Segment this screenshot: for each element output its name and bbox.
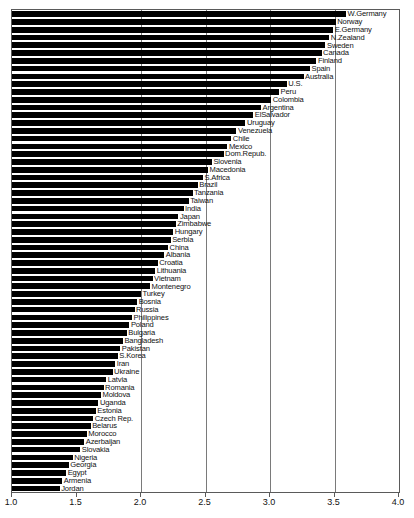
x-tick-label: 3.5: [327, 497, 340, 507]
bar: [12, 338, 123, 344]
bar: [12, 361, 115, 367]
bar: [12, 58, 316, 64]
bar: [12, 167, 208, 173]
bar: [12, 307, 135, 313]
bar: [12, 447, 80, 453]
bar: [12, 299, 137, 305]
bar: [12, 260, 158, 266]
bar: [12, 11, 346, 17]
bar: [12, 315, 132, 321]
bar: [12, 97, 271, 103]
bar: [12, 462, 69, 468]
x-axis: 1.01.52.02.53.03.54.0: [11, 493, 400, 518]
bar: [12, 470, 66, 476]
bar: [12, 416, 93, 422]
x-tick-label: 1.5: [69, 497, 82, 507]
x-tick-label: 4.0: [392, 497, 405, 507]
bar: [12, 50, 322, 56]
bar: [12, 455, 73, 461]
bar: [12, 423, 91, 429]
bar: [12, 159, 212, 165]
bar-chart: W.GermanyNorwayE.GermanyN.ZealandSwedenC…: [0, 0, 414, 518]
bar: [12, 136, 231, 142]
bar: [12, 330, 127, 336]
bar: [12, 400, 98, 406]
bar: [12, 221, 176, 227]
bar: [12, 439, 84, 445]
bar: [12, 206, 184, 212]
bar: [12, 42, 325, 48]
bar: [12, 27, 333, 33]
bar: [12, 283, 150, 289]
bar: [12, 151, 224, 157]
bar: [12, 408, 96, 414]
bar: [12, 105, 261, 111]
bar: [12, 81, 287, 87]
bar: [12, 128, 236, 134]
bar: [12, 144, 227, 150]
x-tick-label: 1.0: [5, 497, 18, 507]
bar: [12, 120, 245, 126]
bar: [12, 291, 141, 297]
bar-series: W.GermanyNorwayE.GermanyN.ZealandSwedenC…: [12, 10, 399, 492]
bar: [12, 353, 118, 359]
bar: [12, 322, 129, 328]
bar: [12, 237, 171, 243]
plot-area: W.GermanyNorwayE.GermanyN.ZealandSwedenC…: [11, 9, 400, 493]
bar: [12, 268, 155, 274]
bar-category-label: Jordan: [61, 484, 83, 493]
bar: [12, 392, 101, 398]
bar: [12, 229, 173, 235]
bar: [12, 369, 113, 375]
x-tick-label: 2.5: [198, 497, 211, 507]
bar: [12, 252, 164, 258]
x-tick-label: 2.0: [134, 497, 147, 507]
bar-category-label: Australia: [305, 72, 333, 81]
bar: [12, 377, 106, 383]
bar: [12, 112, 253, 118]
bar: [12, 35, 329, 41]
bar: [12, 346, 120, 352]
bar: [12, 245, 168, 251]
bar: [12, 66, 310, 72]
bar: [12, 19, 336, 25]
bar: [12, 276, 153, 282]
bar: [12, 175, 203, 181]
x-tick-label: 3.0: [263, 497, 276, 507]
bar: [12, 431, 87, 437]
bar: [12, 198, 189, 204]
bar: [12, 74, 304, 80]
bar: [12, 182, 198, 188]
bar: [12, 214, 178, 220]
bar: [12, 89, 279, 95]
bar: [12, 478, 62, 484]
bar: [12, 190, 193, 196]
bar: [12, 486, 60, 492]
bar: [12, 385, 104, 391]
